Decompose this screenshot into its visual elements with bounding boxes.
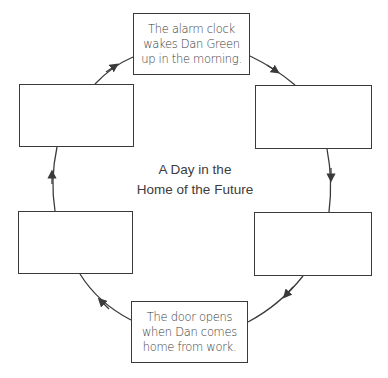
box-text-line: when Dan comes (142, 325, 237, 340)
arrowhead-top-to-right-top-icon (267, 65, 276, 71)
arrowhead-left-top-to-top-icon (106, 66, 115, 72)
box-text-line: wakes Dan Green (141, 37, 242, 52)
diagram-title: A Day in the Home of the Future (120, 160, 270, 200)
arrowhead-right-bottom-to-bottom-icon (286, 287, 293, 295)
cycle-box-bottom-text: The door opens when Dan comes home from … (138, 310, 241, 355)
cycle-box-left-bottom (18, 211, 133, 274)
diagram-title-line-1: A Day in the (120, 160, 270, 180)
cycle-box-bottom: The door opens when Dan comes home from … (131, 301, 248, 363)
arrow-left-bottom-to-left-top (53, 147, 57, 211)
cycle-box-top-text: The alarm clock wakes Dan Green up in th… (137, 22, 246, 67)
box-text-line: home from work. (142, 340, 237, 355)
arrow-top-to-right-top (250, 56, 295, 85)
arrow-bottom-to-left-bottom (80, 274, 131, 320)
diagram-title-line-2: Home of the Future (120, 180, 270, 200)
arrow-left-top-to-top (95, 57, 133, 84)
box-text-line: up in the morning. (141, 52, 242, 67)
arrow-right-top-to-right-bottom (327, 149, 331, 212)
cycle-box-right-top (255, 85, 372, 149)
arrow-right-bottom-to-bottom (248, 276, 303, 322)
cycle-box-top: The alarm clock wakes Dan Green up in th… (133, 13, 250, 75)
box-text-line: The alarm clock (141, 22, 242, 37)
cycle-box-left-top (19, 84, 134, 147)
cycle-box-right-bottom (254, 212, 372, 276)
box-text-line: The door opens (142, 310, 237, 325)
